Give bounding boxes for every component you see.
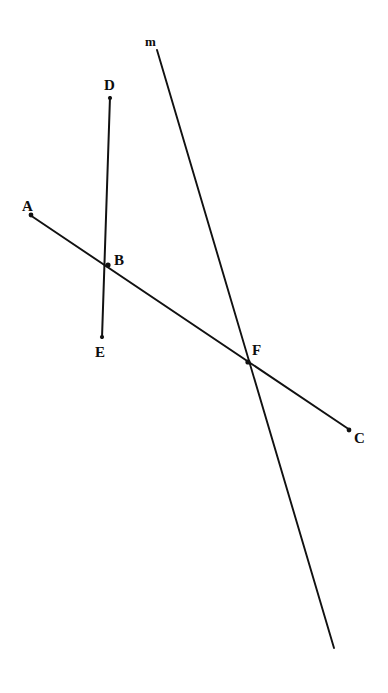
endpoint-dot-e bbox=[100, 335, 104, 339]
endpoint-dot-d bbox=[108, 96, 112, 100]
intersection-dot-f bbox=[245, 359, 250, 364]
line-m bbox=[157, 50, 334, 648]
intersection-dot-b bbox=[105, 262, 110, 267]
figure-canvas bbox=[0, 0, 388, 693]
point-label-E: E bbox=[95, 345, 105, 360]
point-label-D: D bbox=[104, 78, 115, 93]
point-label-C: C bbox=[354, 431, 365, 446]
point-label-A: A bbox=[22, 199, 33, 214]
point-label-F: F bbox=[252, 343, 261, 358]
points-group bbox=[29, 96, 352, 433]
segment-ac bbox=[30, 215, 350, 430]
point-label-B: B bbox=[114, 253, 124, 268]
endpoint-dot-c bbox=[347, 428, 352, 433]
segments-group bbox=[30, 50, 350, 648]
segment-de bbox=[102, 97, 110, 338]
geometry-figure: mDABEFC bbox=[0, 0, 388, 693]
point-label-m: m bbox=[145, 35, 156, 48]
